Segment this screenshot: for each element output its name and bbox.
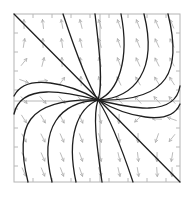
trajectory-bottom-curve-5 [23, 100, 98, 182]
field-arrow-icon [155, 20, 159, 28]
field-arrow-icon [155, 39, 159, 47]
field-arrow-icon [23, 39, 26, 48]
field-arrow-icon [41, 20, 44, 29]
field-arrow-icon [136, 39, 140, 47]
field-arrow-icon [118, 168, 121, 177]
trajectory-bottom-curve-1 [98, 100, 133, 182]
field-arrow-icon [168, 117, 177, 121]
phase-portrait-figure [0, 0, 196, 204]
trajectory-top-curve-5 [98, 14, 173, 100]
field-arrow-icon [170, 153, 173, 162]
field-arrow-icon [22, 115, 27, 123]
field-arrow-icon [136, 58, 140, 66]
field-arrow-icon [21, 59, 27, 66]
field-arrow-icon [60, 134, 64, 142]
field-arrow-icon [60, 20, 63, 29]
field-arrow-icon [170, 77, 175, 85]
field-arrow-icon [137, 168, 140, 177]
field-arrow-icon [155, 134, 159, 143]
field-arrow-icon [60, 39, 63, 48]
field-arrow-icon [59, 77, 64, 84]
field-arrow-icon [41, 153, 45, 161]
field-arrow-icon [136, 20, 140, 28]
field-arrow-icon [20, 80, 29, 84]
field-arrow-icon [117, 39, 121, 47]
field-arrow-icon [79, 20, 82, 29]
field-arrow-icon [155, 77, 160, 85]
field-arrow-icon [79, 39, 82, 48]
field-arrow-icon [79, 134, 83, 142]
field-arrow-icon [155, 58, 159, 66]
field-arrow-icon [80, 168, 84, 177]
field-arrow-icon [137, 153, 140, 162]
field-arrow-icon [40, 97, 46, 104]
field-arrow-icon [154, 97, 160, 104]
trajectory-right-curve-1 [98, 86, 180, 108]
field-arrow-icon [117, 20, 121, 28]
phase-portrait-plot [0, 0, 196, 204]
field-arrow-icon [118, 153, 121, 162]
field-arrow-icon [135, 97, 141, 104]
field-arrow-icon [80, 153, 84, 161]
field-arrow-icon [41, 168, 45, 176]
field-arrow-icon [60, 115, 64, 123]
field-arrow-icon [135, 116, 142, 122]
field-arrow-icon [41, 134, 45, 142]
field-arrow-icon [60, 168, 64, 176]
field-arrow-icon [169, 135, 175, 142]
trajectory-bottom-curve-3 [72, 100, 98, 182]
field-arrow-icon [41, 115, 46, 123]
field-arrow-icon [60, 153, 64, 161]
field-arrow-icon [42, 58, 45, 67]
field-arrow-icon [156, 168, 159, 177]
field-arrow-icon [117, 58, 121, 66]
